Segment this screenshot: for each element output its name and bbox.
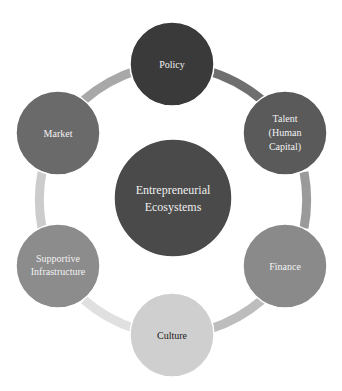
node-talent-label-line2: (Human (269, 127, 302, 139)
center-label-line2: Ecosystems (145, 200, 202, 214)
node-policy-label: Policy (159, 59, 185, 70)
node-policy: Policy (130, 22, 214, 106)
node-finance-label: Finance (269, 261, 301, 272)
ecosystem-cycle-diagram: Entrepreneurial Ecosystems Policy Talent… (0, 0, 342, 391)
center-node: Entrepreneurial Ecosystems (114, 139, 232, 257)
node-infrastructure-label-line2: Infrastructure (31, 266, 86, 277)
ring-segment-market-policy (84, 70, 138, 100)
node-talent-label-line1: Talent (273, 113, 298, 124)
node-finance: Finance (243, 224, 327, 308)
ring-segment-talent-finance (304, 172, 307, 228)
node-culture-label: Culture (157, 330, 188, 341)
node-talent: Talent (Human Capital) (243, 91, 327, 175)
ring-segment-culture-infrastructure (84, 300, 136, 329)
node-supportive-infrastructure: Supportive Infrastructure (16, 224, 100, 308)
node-culture: Culture (130, 293, 214, 377)
node-infrastructure-label-line1: Supportive (36, 253, 80, 264)
node-market: Market (16, 91, 100, 175)
ring-segment-policy-talent (205, 70, 262, 100)
ring-segment-infrastructure-market (39, 172, 42, 228)
node-talent-label-line3: Capital) (269, 141, 301, 153)
node-market-label: Market (44, 128, 73, 139)
ring-segment-finance-culture (210, 300, 262, 329)
center-label-line1: Entrepreneurial (136, 183, 211, 197)
